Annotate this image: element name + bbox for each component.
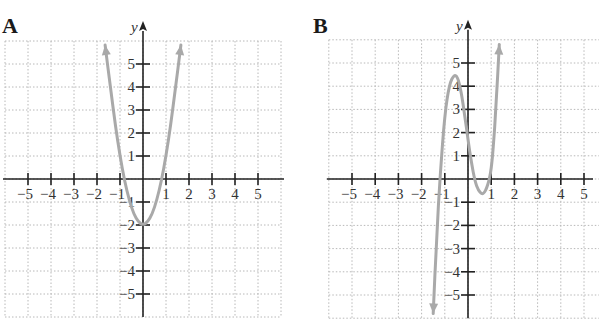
y-tick-label: 4 [128,79,136,95]
y-axis-arrow-icon [139,21,147,31]
x-tick-label: −4 [40,186,56,202]
y-tick-label: −5 [119,286,135,302]
y-tick-label: 1 [453,148,461,164]
x-tick-label: 4 [231,186,239,202]
y-tick-label: 5 [453,55,461,71]
x-tick-label: 4 [557,186,565,202]
curve-arrow-icon [429,303,438,313]
x-tick-label: −5 [17,186,33,202]
panel-label: B [313,13,328,38]
chart-figure: A−5−4−3−2−112345y54321−1−2−3−4−5 B−5−4−3… [0,0,599,322]
y-tick-label: 5 [128,56,136,72]
y-tick-label: −1 [444,194,460,210]
x-tick-label: −5 [341,186,357,202]
y-tick-label: 3 [453,101,461,117]
x-tick-label: 1 [162,186,170,202]
y-tick-label: −2 [119,217,135,233]
y-tick-label: 2 [128,125,136,141]
x-tick-label: −3 [387,186,403,202]
y-axis-arrow-icon [464,20,472,30]
y-tick-label: −5 [444,287,460,303]
y-axis-label: y [129,19,138,35]
curve-arrow-icon [494,44,503,54]
y-tick-label: −2 [444,217,460,233]
y-tick-label: −3 [119,240,135,256]
x-tick-label: −2 [411,186,427,202]
x-tick-label: −4 [364,186,380,202]
x-tick-label: −3 [63,186,79,202]
y-axis-label: y [454,18,463,34]
y-tick-label: −4 [119,263,135,279]
x-tick-label: 1 [487,186,495,202]
graph-panel-a: A−5−4−3−2−112345y54321−1−2−3−4−5 [2,13,284,317]
y-tick-label: 2 [453,125,461,141]
x-tick-label: 3 [534,186,542,202]
x-tick-label: 2 [511,186,519,202]
y-tick-label: 3 [128,102,136,118]
y-tick-label: −3 [444,241,460,257]
x-tick-label: 2 [185,186,193,202]
y-tick-label: 1 [128,148,136,164]
y-tick-label: −4 [444,264,460,280]
panel-label: A [2,13,18,38]
x-tick-label: 3 [208,186,216,202]
x-tick-label: −2 [86,186,102,202]
x-tick-label: 5 [580,186,588,202]
x-tick-label: 5 [254,186,262,202]
graph-panel-b: B−5−4−3−2−112345y54321−1−2−3−4−5 [313,13,599,318]
